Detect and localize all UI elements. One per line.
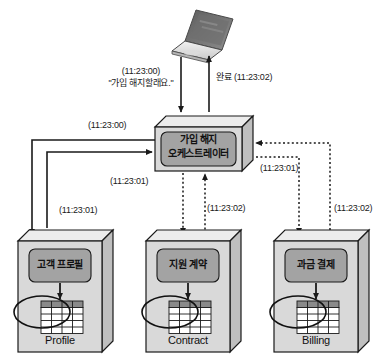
laptop-icon bbox=[172, 10, 233, 63]
db-table-icon-profile bbox=[41, 301, 83, 334]
service-label-billing: 과금 결제 bbox=[285, 259, 347, 271]
service-label-contract: 지원 계약 bbox=[157, 259, 219, 271]
edge-label-billing-return: (11:23:02) bbox=[334, 203, 372, 214]
edge-label-contract-call: (11:23:01) bbox=[110, 176, 148, 187]
service-label-profile: 고객 프로필 bbox=[29, 259, 91, 271]
db-table-icon-billing bbox=[297, 301, 339, 334]
edge-label-orch-in-left: (11:23:00) bbox=[88, 120, 126, 131]
diagram-canvas: (11:23:00) "가입 해지할래요." 완료 (11:23:02) (11… bbox=[0, 0, 384, 362]
diagram-graphics bbox=[0, 0, 384, 362]
db-label-billing: Billing bbox=[274, 334, 358, 346]
edge-label-profile-call: (11:23:01) bbox=[59, 205, 97, 216]
edge-label-request-time: (11:23:00) bbox=[86, 66, 196, 77]
db-label-profile: Profile bbox=[18, 334, 102, 346]
db-label-contract: Contract bbox=[146, 334, 230, 346]
edge-billing-to-orch bbox=[256, 143, 330, 230]
orchestrator-label-line2: 오케스트레이터 bbox=[155, 148, 242, 160]
edge-label-contract-return: (11:23:02) bbox=[207, 203, 245, 214]
edge-orch-to-profile bbox=[32, 140, 155, 235]
edge-label-orch-return-right: (11:23:01) bbox=[260, 163, 298, 174]
orchestrator-label-line1: 가입 해지 bbox=[155, 134, 242, 146]
edge-label-request-quote: "가입 해지할래요." bbox=[80, 78, 202, 89]
db-table-icon-contract bbox=[169, 301, 211, 334]
edge-profile-to-orch bbox=[47, 152, 152, 228]
edge-label-complete: 완료 (11:23:02) bbox=[216, 72, 272, 83]
